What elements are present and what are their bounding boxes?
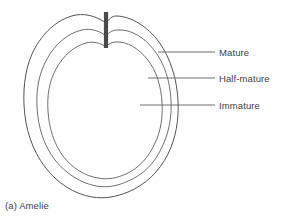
mature-contour <box>24 15 178 198</box>
immature-contour <box>48 42 162 179</box>
figure-panel: Mature Half-mature Immature (a) Amelie <box>0 0 288 220</box>
label-half-mature: Half-mature <box>219 73 270 84</box>
label-mature: Mature <box>219 47 249 58</box>
label-immature: Immature <box>219 100 260 111</box>
figure-caption: (a) Amelie <box>5 200 49 211</box>
half-mature-contour <box>37 29 171 186</box>
